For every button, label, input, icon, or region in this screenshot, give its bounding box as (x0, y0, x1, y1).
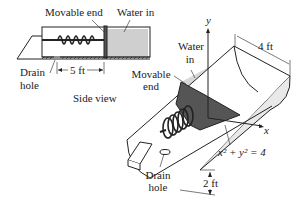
equation-label: x² + y² = 4 (218, 146, 266, 158)
x-axis-label: x (264, 124, 269, 136)
trough-diagram: Movable end Water in Drain hole 5 ft Sid… (0, 0, 306, 208)
movable-end-label-2: end (130, 80, 172, 92)
side-water-in-label: Water in (117, 6, 154, 18)
side-movable-end-label: Movable end (45, 6, 103, 18)
water-in-label-1: Water (178, 40, 202, 52)
width-dimension-label: 4 ft (258, 40, 273, 52)
drain-hole-label-2: hole (144, 181, 172, 193)
side-drain-label-2: hole (20, 79, 39, 91)
side-drain-label-1: Drain (20, 66, 45, 78)
water-in-label-2: in (178, 53, 202, 65)
movable-end-label-1: Movable (130, 68, 172, 80)
side-view-caption: Side view (73, 92, 117, 104)
drain-hole-label-1: Drain (144, 169, 172, 181)
y-axis-label: y (206, 14, 211, 26)
depth-dimension-label: 2 ft (203, 177, 218, 189)
side-dimension-label: 5 ft (70, 64, 85, 76)
